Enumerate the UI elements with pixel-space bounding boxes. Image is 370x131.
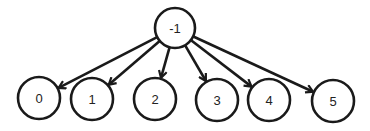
node-label-3: 3: [213, 93, 220, 108]
node-label-root: -1: [169, 21, 181, 36]
node-child-4: 4: [248, 79, 290, 121]
nodes-group: -1 0 1 2 3 4 5: [18, 8, 354, 122]
node-child-2: 2: [134, 78, 176, 120]
node-label-4: 4: [265, 93, 272, 108]
node-label-0: 0: [35, 91, 42, 106]
node-label-2: 2: [151, 92, 158, 107]
tree-diagram: -1 0 1 2 3 4 5: [0, 0, 370, 131]
node-label-1: 1: [88, 92, 95, 107]
node-root: -1: [155, 8, 195, 48]
node-child-5: 5: [312, 80, 354, 122]
node-child-3: 3: [196, 79, 238, 121]
node-label-5: 5: [329, 94, 336, 109]
node-child-0: 0: [18, 77, 60, 119]
edge-arrow--1-to-2: [161, 46, 170, 78]
node-child-1: 1: [71, 78, 113, 120]
